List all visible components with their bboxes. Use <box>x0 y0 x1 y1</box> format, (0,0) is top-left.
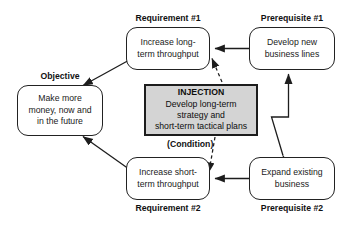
node-objective[interactable]: Make more money, now and in the future <box>17 85 103 136</box>
caption-prerequisite1: Prerequisite #1 <box>249 13 335 23</box>
caption-requirement2: Requirement #2 <box>126 203 210 213</box>
node-prerequisite1-text: Develop new business lines <box>262 37 323 60</box>
node-requirement2[interactable]: Increase short- term throughput <box>126 157 210 200</box>
node-injection-text: Develop long-term strategy and short-ter… <box>155 99 247 133</box>
node-prerequisite1[interactable]: Develop new business lines <box>249 27 335 70</box>
node-requirement1-text: Increase long- term throughput <box>134 37 201 60</box>
node-injection[interactable]: INJECTION Develop long-term strategy and… <box>144 84 258 136</box>
caption-objective: Objective <box>17 71 103 81</box>
label-condition: (Condition) <box>167 139 213 149</box>
caption-requirement1: Requirement #1 <box>126 13 210 23</box>
caption-prerequisite2: Prerequisite #2 <box>249 203 335 213</box>
node-requirement2-text: Increase short- term throughput <box>134 167 201 190</box>
node-prerequisite2[interactable]: Expand existing business <box>249 157 335 200</box>
node-requirement1[interactable]: Increase long- term throughput <box>126 27 210 70</box>
edge-requirement2-to-objective <box>83 137 128 169</box>
edge-injection-to-requirement1 <box>212 59 222 83</box>
node-objective-text: Make more money, now and in the future <box>25 93 94 127</box>
node-prerequisite2-text: Expand existing business <box>258 167 325 190</box>
node-injection-title: INJECTION <box>155 87 247 98</box>
edge-prerequisite2-to-prerequisite1-conflict <box>272 74 289 156</box>
diagram-canvas: Requirement #1 Increase long- term throu… <box>0 0 349 231</box>
